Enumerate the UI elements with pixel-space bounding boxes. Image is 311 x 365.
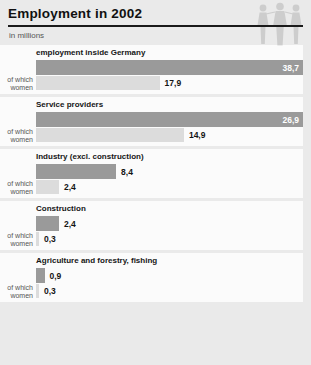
- bar-track: 0,9: [36, 268, 303, 283]
- bar-group: Service providers 26,9 of which women 14…: [0, 97, 303, 146]
- bar-women: [36, 232, 39, 246]
- group-label: Agriculture and forestry, fishing: [36, 256, 303, 266]
- bar-value-women: 17,9: [165, 78, 182, 88]
- bar-row-women: of which women 0,3: [0, 284, 303, 298]
- chart-header: Employment in 2002 in millions: [0, 0, 311, 41]
- bar-value-women: 0,3: [44, 286, 56, 296]
- bar-value-total: 26,9: [282, 115, 299, 125]
- bar-row-women: of which women 17,9: [0, 76, 303, 90]
- of-which-women-line1: of which: [0, 128, 33, 136]
- of-which-women-line2: women: [0, 136, 33, 144]
- bar-value-total: 0,9: [50, 271, 62, 281]
- bar-total: [36, 216, 59, 231]
- bar-track: 17,9: [36, 76, 303, 90]
- bar-total: [36, 112, 303, 127]
- bar-row-total: 26,9: [0, 112, 303, 127]
- bar-row-total: 38,7: [0, 60, 303, 75]
- bar-track: 8,4: [36, 164, 303, 179]
- of-which-women-label: of which women: [0, 284, 33, 299]
- bar-track: 2,4: [36, 216, 303, 231]
- of-which-women-line1: of which: [0, 284, 33, 292]
- bar-track: 0,3: [36, 284, 303, 298]
- bar-women: [36, 180, 59, 194]
- group-label: Construction: [36, 204, 303, 214]
- bar-value-women: 2,4: [64, 182, 76, 192]
- bar-row-women: of which women 2,4: [0, 180, 303, 194]
- bar-value-total: 2,4: [64, 219, 76, 229]
- bar-row-total: 0,9: [0, 268, 303, 283]
- bar-value-total: 8,4: [121, 167, 133, 177]
- bar-women: [36, 128, 184, 142]
- bar-row-total: 2,4: [0, 216, 303, 231]
- of-which-women-label: of which women: [0, 76, 33, 91]
- bar-women: [36, 284, 39, 298]
- bar-value-women: 0,3: [44, 234, 56, 244]
- bar-group: Industry (excl. construction) 8,4 of whi…: [0, 149, 303, 198]
- bar-value-women: 14,9: [189, 130, 206, 140]
- bar-track: 38,7: [36, 60, 303, 75]
- bar-row-women: of which women 14,9: [0, 128, 303, 142]
- bar-track: 26,9: [36, 112, 303, 127]
- of-which-women-line1: of which: [0, 180, 33, 188]
- of-which-women-label: of which women: [0, 128, 33, 143]
- of-which-women-line1: of which: [0, 76, 33, 84]
- group-label: Service providers: [36, 100, 303, 110]
- bar-total: [36, 268, 45, 283]
- bar-row-total: 8,4: [0, 164, 303, 179]
- of-which-women-label: of which women: [0, 180, 33, 195]
- group-label: Industry (excl. construction): [36, 152, 303, 162]
- of-which-women-line2: women: [0, 292, 33, 300]
- bar-group: Agriculture and forestry, fishing 0,9 of…: [0, 253, 303, 302]
- of-which-women-line2: women: [0, 188, 33, 196]
- bar-track: 14,9: [36, 128, 303, 142]
- bar-row-women: of which women 0,3: [0, 232, 303, 246]
- bar-track: 0,3: [36, 232, 303, 246]
- page-title: Employment in 2002: [8, 6, 303, 22]
- of-which-women-line2: women: [0, 240, 33, 248]
- bar-group: Construction 2,4 of which women 0,3: [0, 201, 303, 250]
- bar-total: [36, 164, 116, 179]
- of-which-women-label: of which women: [0, 232, 33, 247]
- bar-total: [36, 60, 303, 75]
- bar-women: [36, 76, 160, 90]
- bar-value-total: 38,7: [282, 63, 299, 73]
- of-which-women-line2: women: [0, 84, 33, 92]
- group-label: employment inside Germany: [36, 48, 303, 58]
- title-rule: [8, 25, 303, 27]
- bar-group: employment inside Germany 38,7 of which …: [0, 45, 303, 94]
- bar-track: 2,4: [36, 180, 303, 194]
- chart-subtitle: in millions: [9, 31, 303, 41]
- of-which-women-line1: of which: [0, 232, 33, 240]
- bar-chart: employment inside Germany 38,7 of which …: [0, 45, 311, 302]
